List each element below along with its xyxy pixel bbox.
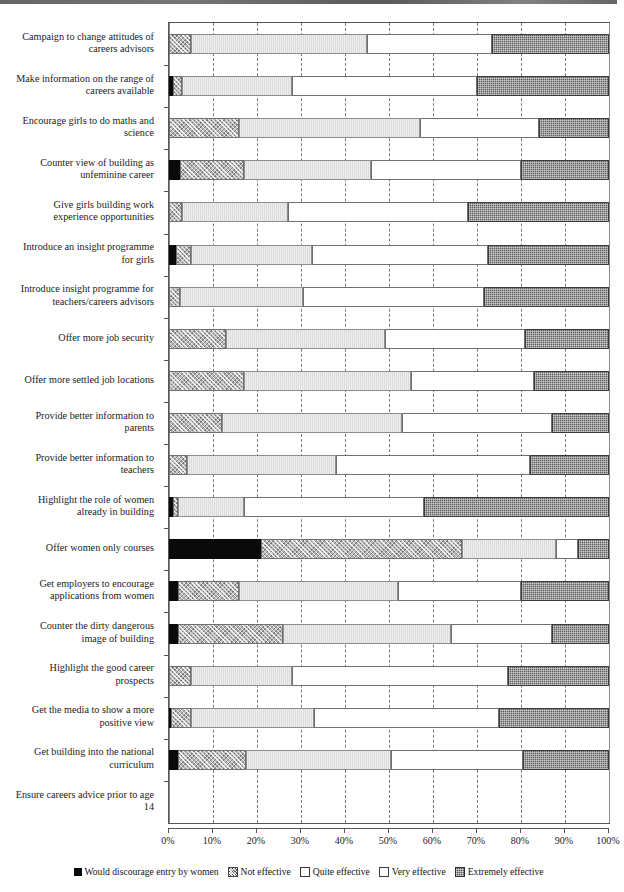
bar-segment-s1 [169,455,187,475]
x-axis-tick [432,828,433,833]
bar-row[interactable] [169,581,609,601]
bar-segment-s3 [303,287,483,307]
bar-segment-s3 [336,455,530,475]
bar-segment-s2 [178,497,244,517]
legend-item[interactable]: Very effective [379,866,446,877]
category-label: Offer more job security [2,332,160,344]
legend-item[interactable]: Extremely effective [455,866,544,877]
bar-segment-s2 [283,624,450,644]
bar-segment-s1 [178,750,246,770]
category-label-line: careers available [2,85,154,97]
bar-segment-s2 [191,666,292,686]
x-axis-tick-label: 0% [148,835,188,846]
legend-swatch-icon [300,867,310,877]
y-axis-tick [164,612,169,613]
legend-item[interactable]: Not effective [228,866,291,877]
category-label-line: Provide better information to [2,452,154,464]
bar-row[interactable] [169,34,609,54]
bar-row[interactable] [169,329,609,349]
bar-row[interactable] [169,750,609,770]
bar-row[interactable] [169,76,609,96]
bar-row[interactable] [169,160,609,180]
y-axis-tick [164,486,169,487]
bar-segment-s1 [169,413,222,433]
bar-row[interactable] [169,118,609,138]
y-axis-tick [164,107,169,108]
category-label: Counter the dirty dangerousimage of buil… [2,620,160,645]
bar-segment-s3 [556,539,578,559]
x-axis-tick [256,828,257,833]
x-axis-tick [344,828,345,833]
bar-segment-s1 [169,34,191,54]
bar-segment-s0 [169,245,176,265]
bar-segment-s4 [523,750,609,770]
bar-segment-s2 [191,34,367,54]
bar-row[interactable] [169,666,609,686]
bar-segment-s1 [169,371,244,391]
y-axis-tick [164,65,169,66]
bar-segment-s4 [552,413,609,433]
bar-segment-s2 [239,581,397,601]
x-axis-tick-label: 50% [368,835,408,846]
bar-segment-s1 [178,624,284,644]
category-label: Highlight the role of womenalready in bu… [2,494,160,519]
category-label-line: experience opportunities [2,211,154,223]
x-axis-tick-label: 100% [588,835,624,846]
bar-segment-s4 [521,581,609,601]
category-label: Introduce insight programme forteachers/… [2,283,160,308]
category-label-line: unfeminine career [2,169,154,181]
bar-segment-s1 [180,160,244,180]
category-label: Campaign to change attitudes ofcareers a… [2,31,160,56]
y-axis-tick [164,234,169,235]
bar-segment-s3 [420,118,539,138]
x-axis-tick [520,828,521,833]
bar-row[interactable] [169,413,609,433]
bar-segment-s3 [312,245,488,265]
category-label: Get building into the nationalcurriculum [2,746,160,771]
category-label-line: Highlight the role of women [2,494,154,506]
category-label-line: Offer more settled job locations [2,374,154,386]
bar-segment-s2 [244,371,411,391]
category-label-line: science [2,127,154,139]
bar-segment-s4 [488,245,609,265]
bar-segment-s1 [169,287,180,307]
plot-area [168,22,610,824]
legend-item[interactable]: Would discourage entry by women [74,866,219,877]
bar-row[interactable] [169,245,609,265]
legend-swatch-icon [74,868,82,876]
bar-segment-s4 [492,34,609,54]
bar-segment-s1 [261,539,461,559]
bar-segment-s3 [398,581,521,601]
bar-row[interactable] [169,708,609,728]
bar-row[interactable] [169,202,609,222]
bar-segment-s2 [182,202,288,222]
bar-row[interactable] [169,371,609,391]
bar-row[interactable] [169,497,609,517]
bar-segment-s1 [176,245,191,265]
category-label-line: 14 [2,801,154,813]
bar-segment-s1 [169,329,226,349]
bar-segment-s3 [385,329,526,349]
bar-row[interactable] [169,287,609,307]
bar-segment-s2 [226,329,384,349]
legend-label: Extremely effective [468,866,544,877]
legend-label: Not effective [241,866,291,877]
category-label-line: applications from women [2,590,154,602]
x-axis-tick [564,828,565,833]
category-label-line: teachers [2,464,154,476]
bar-segment-s0 [169,160,180,180]
bar-row[interactable] [169,455,609,475]
category-label-line: curriculum [2,759,154,771]
y-axis-tick [164,739,169,740]
category-label-line: for girls [2,254,154,266]
category-label-line: prospects [2,675,154,687]
bar-segment-s3 [292,76,477,96]
bar-row[interactable] [169,624,609,644]
chart-legend: Would discourage entry by womenNot effec… [0,866,617,877]
legend-item[interactable]: Quite effective [300,866,370,877]
y-axis-tick [164,360,169,361]
bar-row[interactable] [169,539,609,559]
bar-row[interactable] [169,792,609,812]
y-axis-tick [164,781,169,782]
category-label-line: image of building [2,633,154,645]
